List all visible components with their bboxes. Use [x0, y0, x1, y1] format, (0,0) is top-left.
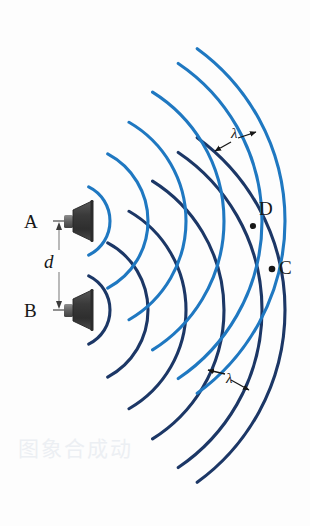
point-label-c: C	[279, 258, 292, 277]
wavelength-label-upper: λ	[231, 126, 238, 141]
point-c-dot	[269, 266, 276, 273]
wavelength-label-lower: λ	[226, 371, 233, 386]
wavelength-arrow-upper-left	[215, 142, 231, 151]
arcs-b-arc-4	[153, 181, 224, 439]
speaker-a-magnet	[64, 215, 73, 228]
separation-dimension	[53, 221, 66, 310]
arcs-a-arc-5	[178, 63, 262, 378]
speaker-b-icon	[64, 289, 94, 331]
point-d-dot	[250, 223, 256, 229]
interference-figure: 图象合成动	[0, 0, 310, 526]
arcs-a-arc-4	[153, 92, 224, 350]
speaker-a-icon	[64, 200, 94, 242]
speaker-b-cone	[73, 290, 92, 330]
arcs-b-arc-5	[178, 152, 262, 467]
speaker-b-rim	[91, 289, 94, 331]
separation-label-d: d	[44, 252, 54, 271]
dimension-arrowhead-bottom	[56, 301, 62, 309]
source-label-b: B	[24, 301, 37, 320]
speaker-a-rim	[91, 200, 94, 242]
source-label-a: A	[24, 212, 38, 231]
speaker-b-magnet	[64, 304, 73, 317]
speaker-a-cone	[73, 201, 92, 241]
dimension-arrowhead-top	[56, 222, 62, 230]
wavefronts-speaker-a	[89, 49, 285, 394]
point-label-d: D	[259, 199, 273, 218]
wavefronts-speaker-b	[89, 138, 285, 483]
